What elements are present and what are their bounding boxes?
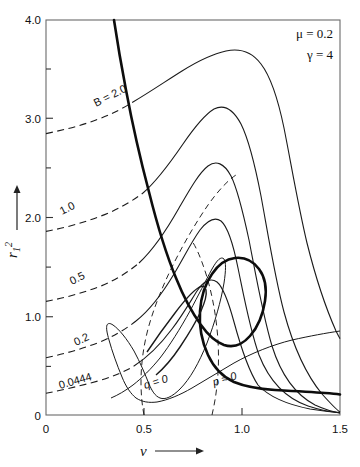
figure-container: 4.0 3.0 2.0 1.0 0 0 0.5 1.0 1.5 ν r12	[0, 0, 360, 467]
x-tick-label-0-5: 0.5	[136, 423, 152, 435]
chart-svg: 4.0 3.0 2.0 1.0 0 0 0.5 1.0 1.5 ν r12	[0, 0, 360, 467]
curve-b-0-0444	[46, 280, 340, 412]
y-axis-ticks	[46, 69, 53, 366]
x-tick-label-0: 0	[43, 423, 49, 435]
curve-b-0-2	[46, 219, 340, 413]
x-tick-label-1-0: 1.0	[234, 423, 250, 435]
curve-b-1-0	[46, 107, 340, 412]
y-tick-labels: 4.0 3.0 2.0 1.0 0	[25, 14, 41, 422]
curve-inner-spiral	[147, 286, 206, 375]
gamma-annotation: γ = 4	[306, 47, 334, 62]
x-axis-ticks	[144, 408, 242, 415]
y-tick-label-2-0: 2.0	[25, 212, 41, 224]
plot-frame	[46, 20, 340, 415]
curve-b-2-0	[46, 50, 340, 339]
curve-label-b-0-5: 0.5	[67, 269, 86, 287]
curve-label-b-0-0444: 0.0444	[57, 370, 93, 391]
curve-label-q-equals-0: q = 0	[142, 372, 170, 391]
y-tick-label-3-0: 3.0	[25, 113, 41, 125]
curve-label-b-0-2: 0.2	[72, 330, 91, 347]
y-axis-title: r12	[3, 185, 22, 258]
curve-label-b-2-0: B = 2.0	[91, 82, 128, 109]
parameter-annotations: μ = 0.2 γ = 4	[296, 26, 334, 62]
x-tick-labels: 0 0.5 1.0 1.5	[43, 423, 348, 435]
svg-text:ν: ν	[140, 443, 147, 459]
curve-labels: B = 2.0 1.0 0.5 0.2 0.0444 p ≈ 0 q = 0	[57, 82, 239, 391]
curve-p-equals-0	[114, 20, 340, 395]
y-tick-label-1-0: 1.0	[25, 311, 41, 323]
y-tick-label-0: 0	[35, 410, 41, 422]
svg-text:r12: r12	[3, 242, 22, 258]
y-tick-label-4-0: 4.0	[25, 14, 41, 26]
curve-label-b-1-0: 1.0	[57, 199, 76, 217]
x-axis-title: ν	[140, 443, 204, 459]
x-tick-label-1-5: 1.5	[332, 423, 348, 435]
curve-label-p-equals-0: p ≈ 0	[210, 369, 239, 388]
mu-annotation: μ = 0.2	[296, 26, 333, 41]
